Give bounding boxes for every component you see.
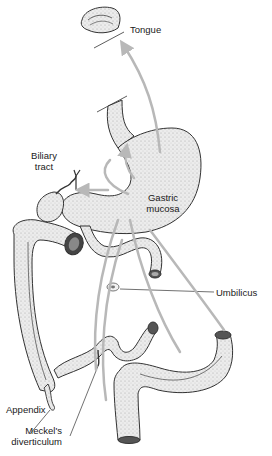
gi-tract-diagram: Tongue Biliary tract Gastric mucosa Umbi… — [0, 0, 272, 456]
umbilicus-illustration — [107, 283, 214, 292]
stomach-illustration — [62, 128, 201, 234]
umbilicus-label: Umbilicus — [216, 287, 257, 298]
meckels-label-line1: Meckel's — [4, 425, 62, 436]
tongue-label: Tongue — [130, 24, 161, 35]
descending-colon-illustration — [114, 331, 233, 444]
tongue-illustration — [81, 7, 124, 48]
biliary-tract-label: Biliary tract — [16, 150, 72, 172]
gastric-mucosa-label-line2: mucosa — [138, 203, 188, 214]
meckels-diverticulum-label: Meckel's diverticulum — [4, 425, 62, 447]
anatomy-illustration — [0, 0, 272, 456]
biliary-tract-label-line2: tract — [16, 161, 72, 172]
meckels-label-line2: diverticulum — [4, 436, 62, 447]
biliary-tract-label-line1: Biliary — [16, 150, 72, 161]
gastric-mucosa-label: Gastric mucosa — [138, 192, 188, 214]
gastric-mucosa-label-line1: Gastric — [138, 192, 188, 203]
appendix-label: Appendix — [6, 404, 46, 415]
